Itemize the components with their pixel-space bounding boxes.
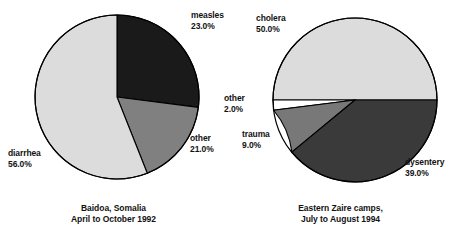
pie-label-dysentery: dysentery 39.0%	[405, 157, 444, 178]
chart-panel-eastern-zaire-camps: cholera 50.0% other 2.0% trauma 9.0% dys…	[227, 0, 454, 247]
chart-panel-baidoa-somalia: measles 23.0% other 21.0% diarrhea 56.0%…	[0, 0, 227, 247]
pie-label-diarrhea: diarrhea 56.0%	[8, 148, 41, 169]
pie-chart-figure: measles 23.0% other 21.0% diarrhea 56.0%…	[0, 0, 454, 247]
pie-slice-cholera	[273, 18, 437, 100]
chart-caption-baidoa-somalia: Baidoa, Somalia April to October 1992	[0, 203, 227, 225]
pie-label-cholera: cholera 50.0%	[256, 13, 286, 34]
pie-slice-measles	[117, 15, 199, 107]
chart-caption-eastern-zaire-camps: Eastern Zaire camps, July to August 1994	[227, 203, 454, 225]
pie-label-other: other 2.0%	[224, 93, 245, 114]
pie-label-measles: measles 23.0%	[191, 10, 224, 31]
pie-label-other: other 21.0%	[190, 133, 214, 154]
pie-label-trauma: trauma 9.0%	[242, 129, 270, 150]
